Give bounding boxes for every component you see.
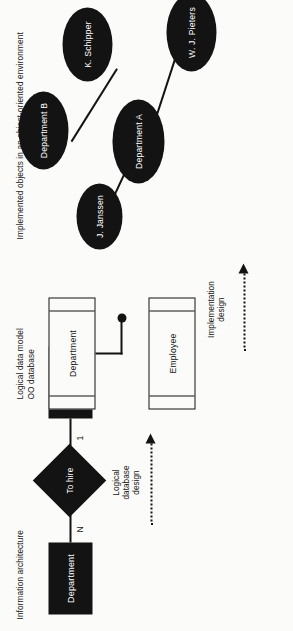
transition-implementation-design-label: Implementation design xyxy=(205,259,225,359)
diagram-canvas: Information architecture Department N To… xyxy=(0,0,293,631)
object-department-b: Department B xyxy=(18,91,68,169)
object-w-j-pieters-label: W. J. Pieters xyxy=(186,7,196,58)
object-j-janssen: J. Janssen xyxy=(76,183,122,249)
class-association-vertical xyxy=(95,352,122,354)
object-k-schipper-label: K. Schipper xyxy=(82,21,92,68)
class-association-horizontal xyxy=(120,320,122,354)
class-box-employee-label: Employee xyxy=(149,298,194,408)
transition-implementation-design-arrowhead xyxy=(238,263,248,273)
heading-logical-data-model: Logical data model OO database xyxy=(14,328,35,399)
er-entity-department: Department xyxy=(48,542,92,614)
object-department-b-label: Department B xyxy=(38,102,48,157)
object-department-a: Department A xyxy=(112,99,164,183)
er-link-employee xyxy=(69,418,71,451)
er-cardinality-1: 1 xyxy=(74,435,84,440)
object-k-schipper: K. Schipper xyxy=(62,7,112,81)
class-box-department: Department xyxy=(48,297,95,409)
heading-information-architecture: Information architecture xyxy=(14,529,25,619)
class-box-employee: Employee xyxy=(148,297,195,409)
transition-implementation-design-line xyxy=(243,270,245,350)
transition-logical-database-design-label: Logical database design xyxy=(110,429,140,535)
class-box-department-label: Department xyxy=(49,298,94,408)
transition-logical-database-design-line xyxy=(150,440,152,524)
transition-logical-database-design-arrowhead xyxy=(145,433,155,443)
class-association-multiplicity-dot xyxy=(117,313,126,322)
er-relationship-to-hire-label: To hire xyxy=(43,454,95,506)
er-cardinality-n: N xyxy=(74,526,84,532)
figure-rotation-wrapper: Information architecture Department N To… xyxy=(0,0,293,631)
object-j-janssen-label: J. Janssen xyxy=(94,194,104,237)
object-department-a-label: Department A xyxy=(133,114,143,169)
er-entity-department-label: Department xyxy=(65,553,75,602)
object-w-j-pieters: W. J. Pieters xyxy=(166,0,216,71)
